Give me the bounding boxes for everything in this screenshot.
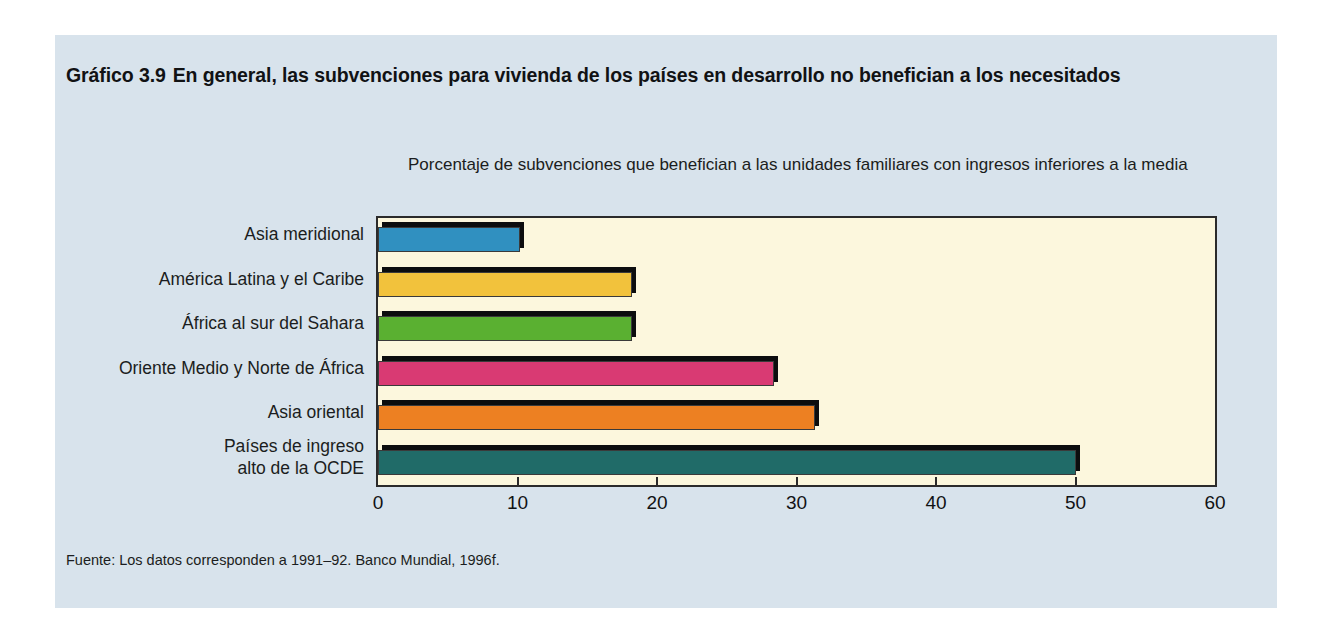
bar-2 bbox=[378, 272, 632, 297]
bar-4 bbox=[378, 361, 774, 386]
bar-row bbox=[378, 267, 1215, 312]
bar-row bbox=[378, 222, 1215, 267]
plot-area bbox=[376, 216, 1217, 487]
tick-label: 50 bbox=[1046, 492, 1106, 514]
tick-label: 40 bbox=[906, 492, 966, 514]
tick-label: 10 bbox=[488, 492, 548, 514]
tick-label: 30 bbox=[767, 492, 827, 514]
bar-3 bbox=[378, 316, 632, 341]
category-label: Oriente Medio y Norte de África bbox=[0, 357, 374, 379]
category-label: África al sur del Sahara bbox=[0, 312, 374, 334]
bar-6 bbox=[378, 450, 1076, 475]
category-axis-labels: Asia meridionalAmérica Latina y el Carib… bbox=[0, 216, 374, 487]
category-label: Países de ingresoalto de la OCDE bbox=[0, 435, 374, 479]
tick-mark bbox=[796, 477, 798, 486]
category-label: América Latina y el Caribe bbox=[0, 268, 374, 290]
source-note: Fuente: Los datos corresponden a 1991–92… bbox=[66, 552, 500, 568]
bar-row bbox=[378, 311, 1215, 356]
bar-1 bbox=[378, 227, 520, 252]
bar-row bbox=[378, 356, 1215, 401]
figure-title-text: En general, las subvenciones para vivien… bbox=[173, 64, 1121, 86]
tick-mark bbox=[517, 477, 519, 486]
bar-5 bbox=[378, 405, 815, 430]
tick-label: 20 bbox=[627, 492, 687, 514]
page-title: Gráfico 3.9En general, las subvenciones … bbox=[66, 62, 1206, 89]
tick-mark bbox=[935, 477, 937, 486]
bar-row bbox=[378, 400, 1215, 445]
tick-label: 0 bbox=[348, 492, 408, 514]
tick-mark bbox=[1075, 477, 1077, 486]
figure-number: Gráfico 3.9 bbox=[66, 64, 166, 86]
tick-label: 60 bbox=[1185, 492, 1245, 514]
tick-mark bbox=[656, 477, 658, 486]
chart-subtitle: Porcentaje de subvenciones que beneficia… bbox=[408, 152, 1208, 177]
category-label: Asia meridional bbox=[0, 223, 374, 245]
category-label: Asia oriental bbox=[0, 401, 374, 423]
